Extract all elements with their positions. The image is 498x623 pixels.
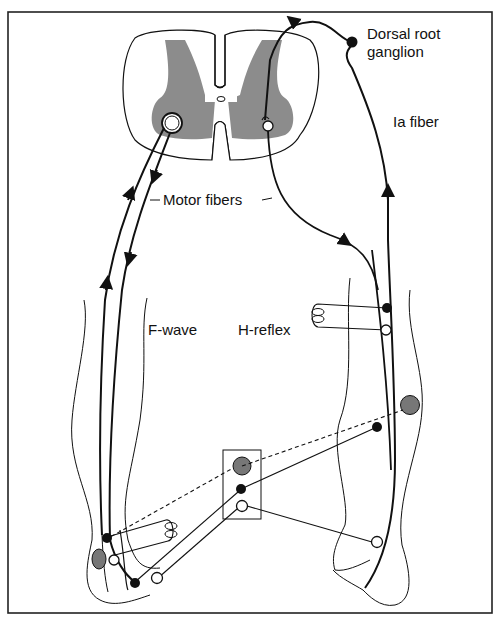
efferent-right <box>268 131 378 290</box>
label-ia-fiber: Ia fiber <box>393 113 439 130</box>
label-ganglion: ganglion <box>367 43 424 60</box>
label-motor-fibers: Motor fibers <box>163 191 242 208</box>
right-leg-outline <box>333 278 422 605</box>
left-ankle-reference-electrode <box>152 573 163 584</box>
f-wave-stimulator <box>107 520 177 555</box>
interneuron-synapse <box>263 121 273 131</box>
central-canal <box>217 97 225 102</box>
left-ankle-active-electrode <box>130 578 140 588</box>
ia-fiber <box>347 45 388 240</box>
label-dorsal-root: Dorsal root <box>367 25 440 42</box>
label-f-wave: F-wave <box>148 321 197 338</box>
reflex-pathway-diagram <box>0 0 498 623</box>
tibial-nerve-right <box>372 250 391 470</box>
label-h-reflex: H-reflex <box>238 321 291 338</box>
h-reflex-anode <box>381 325 391 335</box>
soleus-recording-electrode <box>401 396 420 415</box>
f-wave-cathode <box>102 533 112 543</box>
f-wave-anode <box>109 555 119 565</box>
abductor-recording-electrode <box>92 549 106 569</box>
box-reference-electrode <box>237 501 248 512</box>
h-reflex-cathode <box>382 303 392 313</box>
spinal-cord-cross-section <box>123 30 319 160</box>
right-ankle-electrode <box>372 537 383 548</box>
